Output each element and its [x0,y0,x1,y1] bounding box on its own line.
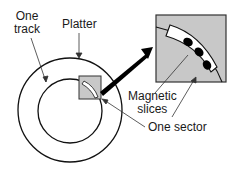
platter-outer-circle [18,58,122,162]
label-one-sector: One sector [148,121,207,134]
label-line: track [14,23,40,36]
inset-magnified-sector [156,15,226,82]
label-one-track: One track [14,10,40,36]
label-platter: Platter [62,18,97,31]
label-line: slices [128,103,177,116]
zoom-region-small [79,76,101,99]
label-magnetic-slices: Magnetic slices [128,90,177,116]
